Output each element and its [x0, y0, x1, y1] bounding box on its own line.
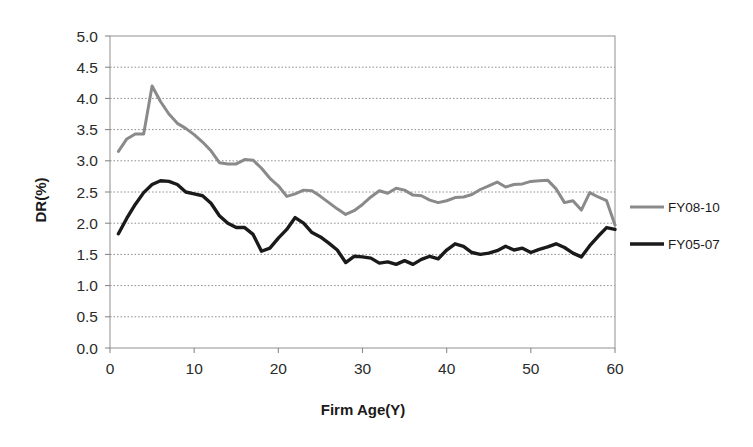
y-tick-label: 2.5: [76, 184, 98, 201]
y-tick-label: 4.0: [76, 90, 98, 107]
y-axis-title: DR(%): [32, 178, 49, 223]
y-tick-label: 2.0: [76, 215, 98, 232]
legend-label-fy08-10: FY08-10: [668, 200, 720, 215]
y-tick-label: 0.0: [76, 340, 98, 357]
legend-label-fy05-07: FY05-07: [668, 237, 720, 252]
x-tick-label: 60: [606, 360, 624, 377]
x-tick-label: 0: [106, 360, 115, 377]
x-tick-label: 30: [354, 360, 372, 377]
y-tick-label: 1.0: [76, 277, 98, 294]
x-tick-label: 40: [438, 360, 456, 377]
y-tick-label: 0.5: [76, 308, 98, 325]
x-tick-label: 10: [186, 360, 204, 377]
y-tick-label: 1.5: [76, 246, 98, 263]
y-tick-label: 3.0: [76, 152, 98, 169]
x-axis-title: Firm Age(Y): [321, 401, 405, 418]
x-tick-label: 50: [522, 360, 540, 377]
y-tick-label: 3.5: [76, 121, 98, 138]
y-tick-label: 5.0: [76, 28, 98, 45]
chart-figure: 0.00.51.01.52.02.53.03.54.04.55.0 010203…: [0, 0, 753, 447]
x-tick-label: 20: [270, 360, 288, 377]
y-tick-label: 4.5: [76, 59, 98, 76]
